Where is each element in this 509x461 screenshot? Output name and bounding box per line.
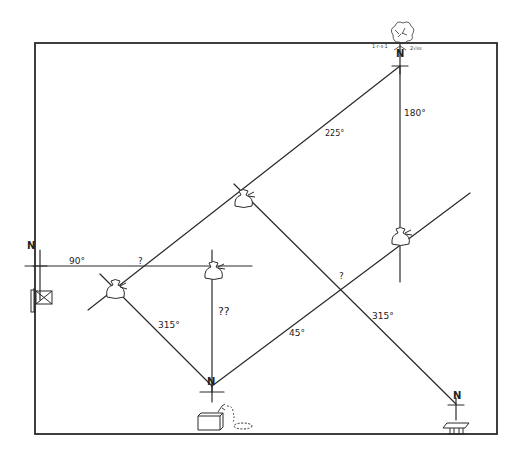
north-label-right: N bbox=[453, 390, 461, 401]
treasure-chest-icon bbox=[198, 404, 252, 430]
svg-text:2√ss: 2√ss bbox=[410, 45, 422, 51]
line-315-right bbox=[234, 184, 456, 404]
bearing-label-315-left: 315° bbox=[158, 320, 180, 330]
bearing-label-180: 180° bbox=[404, 108, 426, 118]
north-label-left: N bbox=[27, 240, 35, 251]
svg-text:1·r·s·1: 1·r·s·1 bbox=[372, 43, 388, 49]
line-225 bbox=[88, 66, 400, 310]
bearing-label-90: 90° bbox=[69, 256, 85, 266]
bearing-label-315-right: 315° bbox=[372, 311, 394, 321]
flag-icon bbox=[31, 288, 52, 312]
map-canvas: 1·r·s·1 2√ss bbox=[0, 0, 509, 461]
north-cross-right bbox=[448, 398, 464, 420]
bearing-label-225: 225° bbox=[325, 129, 344, 138]
unknown-label-left: ? bbox=[138, 256, 143, 266]
north-cross-bottom bbox=[200, 386, 224, 402]
unknown-label-middle: ?? bbox=[218, 305, 230, 318]
north-label-bottom: N bbox=[207, 376, 215, 387]
north-label-top: N bbox=[396, 48, 404, 59]
bearing-label-45: 45° bbox=[289, 328, 305, 338]
money-bag-icon bbox=[392, 228, 412, 246]
bench-icon bbox=[443, 423, 469, 434]
unknown-label-right: ? bbox=[339, 271, 344, 281]
money-bag-icon bbox=[205, 262, 225, 280]
